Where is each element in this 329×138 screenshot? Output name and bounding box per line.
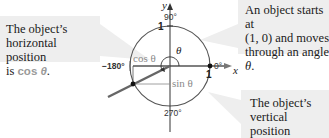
start-point-note: An object starts at (1, 0) and moves thr… — [238, 0, 329, 54]
cos-theta-label: cos θ — [133, 52, 156, 64]
x-unit-label: 1 — [206, 69, 212, 80]
note-text: . — [251, 59, 254, 73]
label-0-deg: 0° — [214, 61, 222, 71]
sin-theta-label: sin θ — [172, 77, 193, 89]
y-unit-label: 1 — [158, 21, 164, 32]
horizontal-position-note: The object’s horizontal position is cos … — [0, 16, 100, 62]
note-line: vertical position — [250, 110, 329, 138]
note-line: An object starts at — [245, 3, 329, 31]
cos-function-text: cos — [17, 65, 37, 77]
theta-label: θ — [176, 44, 182, 56]
note-line: The object’s — [250, 96, 329, 110]
label-90-deg: 90° — [164, 12, 177, 22]
bottom-callout-pointer — [208, 92, 241, 124]
note-line: horizontal position — [6, 36, 100, 64]
note-line: (1, 0) and moves — [245, 31, 329, 45]
note-text: through an angle — [245, 45, 329, 59]
x-axis-arrow-icon — [224, 63, 232, 69]
start-point — [208, 64, 213, 69]
vertical-position-note: The object’s vertical position is sin θ. — [241, 90, 329, 138]
right-callout-pointer — [200, 24, 238, 48]
object-point — [131, 82, 136, 87]
note-text: . — [47, 64, 50, 78]
label-270-deg: 270° — [164, 108, 182, 118]
note-line: is cos θ. — [6, 64, 100, 78]
note-line: The object’s — [6, 22, 100, 36]
y-axis-label: y — [161, 0, 167, 11]
note-line: through an angle θ. — [245, 45, 329, 73]
y-axis-arrow-icon — [167, 3, 173, 10]
x-axis-label: x — [232, 64, 238, 76]
note-text: is — [6, 64, 17, 78]
label-neg-180-deg: −180° — [102, 61, 125, 71]
